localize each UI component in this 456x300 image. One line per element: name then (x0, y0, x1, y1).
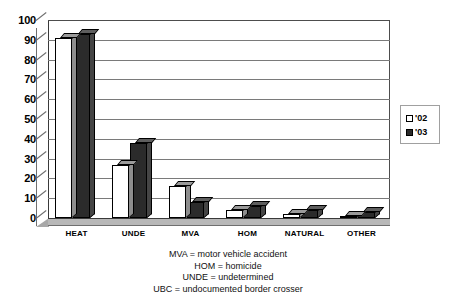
footnote-line: HOM = homicide (0, 261, 456, 273)
bar-top-face (306, 205, 327, 210)
y-tick-label: 40 (0, 134, 36, 145)
axis-wall-tick (36, 131, 47, 140)
footnote-line: MVA = motor vehicle accident (0, 249, 456, 261)
x-tick-label: NATURAL (276, 229, 333, 239)
x-tick-label: UNDE (105, 229, 162, 239)
bar-natural-02 (283, 214, 300, 218)
bar-heat-02 (55, 38, 72, 218)
chart-floor (48, 218, 390, 226)
x-axis: HEATUNDEMVAHOMNATURALOTHER (48, 229, 390, 243)
bar-group (226, 20, 266, 218)
bar-chart: 1009080706050403020100 HEATUNDEMVAHOMNAT… (0, 0, 456, 300)
y-tick-label: 80 (0, 55, 36, 66)
bar-top-face (249, 201, 270, 206)
bar-top-face (78, 29, 99, 34)
axis-wall-tick (36, 210, 47, 219)
legend-item-label: '03 (415, 128, 427, 137)
bar-side-face (72, 34, 77, 218)
bar-front-face (283, 214, 300, 218)
axis-wall-tick (36, 111, 47, 120)
axis-wall-tick (36, 91, 47, 100)
x-tick-label: HOM (219, 229, 276, 239)
axis-wall-tick (36, 151, 47, 160)
bars-layer (48, 20, 390, 218)
filled-square-icon (406, 129, 413, 136)
hollow-square-icon (406, 115, 413, 122)
axis-wall-tick (36, 190, 47, 199)
axis-wall-tick (36, 71, 47, 80)
bar-hom-02 (226, 210, 243, 218)
axis-wall-tick (36, 52, 47, 61)
y-tick-label: 50 (0, 114, 36, 125)
bar-group (169, 20, 209, 218)
legend-item[interactable]: '02 (406, 111, 439, 125)
y-tick-label: 60 (0, 94, 36, 105)
bar-front-face (226, 210, 243, 218)
bar-side-face (186, 182, 191, 218)
bar-top-face (135, 138, 156, 143)
bar-side-face (129, 160, 134, 218)
bar-mva-02 (169, 186, 186, 218)
y-tick-label: 30 (0, 154, 36, 165)
y-tick-label: 90 (0, 35, 36, 46)
bar-group (112, 20, 152, 218)
bar-front-face (55, 38, 72, 218)
bar-top-face (174, 181, 195, 186)
footnote-line: UNDE = undetermined (0, 272, 456, 284)
legend-item[interactable]: '03 (406, 125, 439, 139)
axis-wall-tick (36, 12, 47, 21)
bar-group (283, 20, 323, 218)
bar-group (340, 20, 380, 218)
y-tick-label: 20 (0, 173, 36, 184)
bar-other-02 (340, 216, 357, 218)
legend-item-label: '02 (415, 114, 427, 123)
chart-footnotes: MVA = motor vehicle accidentHOM = homici… (0, 249, 456, 295)
footnote-line: UBC = undocumented border crosser (0, 284, 456, 296)
bar-top-face (192, 197, 213, 202)
y-tick-label: 0 (0, 213, 36, 224)
x-tick-label: HEAT (48, 229, 105, 239)
bar-side-face (90, 30, 95, 218)
bar-front-face (112, 165, 129, 218)
bar-front-face (340, 216, 357, 218)
bar-group (55, 20, 95, 218)
axis-wall-tick (36, 32, 47, 41)
chart-legend: '02'03 (400, 105, 440, 144)
y-tick-label: 100 (0, 15, 36, 26)
y-tick-label: 70 (0, 74, 36, 85)
x-tick-label: MVA (162, 229, 219, 239)
bar-front-face (169, 186, 186, 218)
bar-side-face (147, 139, 152, 218)
axis-wall-tick (36, 170, 47, 179)
bar-top-face (363, 207, 384, 212)
y-tick-label: 10 (0, 193, 36, 204)
bar-unde-02 (112, 165, 129, 218)
x-tick-label: OTHER (333, 229, 390, 239)
